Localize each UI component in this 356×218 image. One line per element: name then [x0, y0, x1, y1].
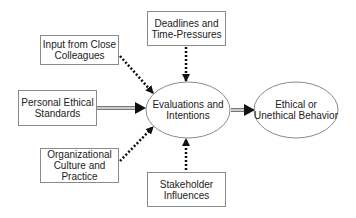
personal-label-line1: Personal Ethical	[21, 97, 93, 108]
organizational-label-line3: Practice	[47, 171, 111, 182]
behavior-label: Ethical or Unethical Behavior	[254, 82, 338, 138]
organizational-label-line2: Culture and	[47, 160, 111, 171]
colleagues-label-line1: Input from Close	[43, 39, 116, 50]
deadlines-label-line2: Time-Pressures	[151, 29, 221, 40]
personal-label-line2: Standards	[21, 108, 93, 119]
stakeholder-label-line1: Stakeholder	[160, 179, 213, 190]
stakeholder-label-line2: Influences	[160, 190, 213, 201]
deadlines-label-line1: Deadlines and	[151, 18, 221, 29]
organizational-label-line1: Organizational	[47, 149, 111, 160]
edge-evaluations-to-behavior	[231, 104, 255, 116]
colleagues-label: Input from Close Colleagues	[40, 35, 119, 65]
edge-personal-to-evaluations	[97, 102, 146, 114]
personal-label: Personal Ethical Standards	[18, 90, 97, 126]
organizational-label: Organizational Culture and Practice	[40, 148, 119, 183]
evaluations-label-line2: Intentions	[152, 110, 223, 121]
evaluations-label-line1: Evaluations and	[152, 99, 223, 110]
evaluations-label: Evaluations and Intentions	[146, 82, 230, 138]
stakeholder-label: Stakeholder Influences	[147, 172, 226, 207]
deadlines-label: Deadlines and Time-Pressures	[147, 11, 226, 46]
behavior-label-line2: Unethical Behavior	[254, 110, 338, 121]
behavior-label-line1: Ethical or	[254, 99, 338, 110]
colleagues-label-line2: Colleagues	[43, 50, 116, 61]
